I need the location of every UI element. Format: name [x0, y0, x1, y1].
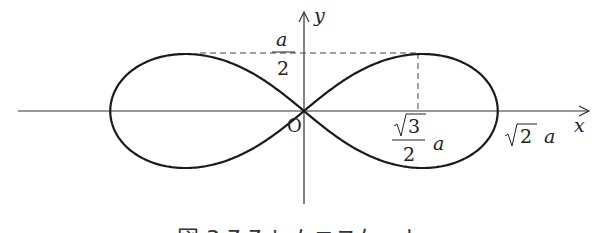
svg-text:2: 2	[403, 143, 415, 165]
x-axis-label: x	[574, 114, 585, 136]
svg-text:a: a	[544, 125, 555, 147]
svg-text:3: 3	[408, 115, 420, 137]
y-axis-label: y	[313, 4, 325, 26]
svg-text:2: 2	[277, 57, 289, 79]
x-intercept-label: 2 a	[505, 124, 555, 147]
svg-text:2: 2	[520, 125, 532, 147]
lemniscate-diagram: y x O a 2 3 2 a 2 a 図 3.7.7 レムニスケート	[0, 0, 597, 233]
svg-text:a: a	[433, 132, 444, 154]
svg-text:a: a	[276, 28, 287, 50]
origin-label: O	[287, 115, 302, 136]
x-at-max-label: 3 2 a	[392, 114, 444, 165]
figure-caption: 図 3.7.7 レムニスケート	[177, 226, 423, 233]
